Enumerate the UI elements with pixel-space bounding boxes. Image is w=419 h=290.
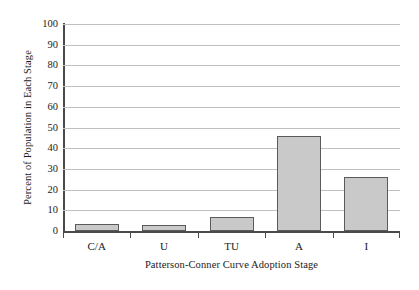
x-tick-mark-4: [333, 231, 334, 238]
x-axis-ticks: [63, 231, 400, 238]
y-tick-label-0: 0: [32, 226, 58, 236]
x-tick-label-I: I: [333, 239, 400, 253]
y-tick-label-20: 20: [32, 185, 58, 195]
x-tick-label-A: A: [265, 239, 332, 253]
bars-layer: [63, 24, 400, 231]
y-tick-label-100: 100: [32, 19, 58, 29]
y-tick-label-80: 80: [32, 60, 58, 70]
x-axis-title: Patterson-Conner Curve Adoption Stage: [63, 259, 400, 270]
y-tick-label-30: 30: [32, 164, 58, 174]
x-axis-tick-labels: C/AUTUAI: [63, 239, 400, 255]
bar-chart: Percent of Population in Each Stage 1009…: [0, 0, 419, 290]
bar-C-A: [75, 224, 119, 231]
y-tick-label-40: 40: [32, 143, 58, 153]
x-tick-mark-2: [198, 231, 199, 238]
x-tick-mark-1: [130, 231, 131, 238]
y-tick-label-50: 50: [32, 123, 58, 133]
x-tick-mark-0: [63, 231, 64, 238]
x-tick-label-U: U: [130, 239, 197, 253]
x-tick-mark-5: [399, 231, 400, 238]
bar-A: [277, 136, 321, 231]
bar-TU: [210, 217, 254, 231]
bar-I: [344, 177, 388, 231]
plot-area: [63, 24, 400, 231]
y-axis-tick-labels: 1009080706050403020100: [30, 24, 58, 231]
x-tick-mark-3: [265, 231, 266, 238]
y-tick-label-70: 70: [32, 81, 58, 91]
y-tick-label-90: 90: [32, 40, 58, 50]
y-tick-label-60: 60: [32, 102, 58, 112]
x-tick-label-TU: TU: [198, 239, 265, 253]
y-tick-label-10: 10: [32, 205, 58, 215]
x-tick-label-C-A: C/A: [63, 239, 130, 253]
